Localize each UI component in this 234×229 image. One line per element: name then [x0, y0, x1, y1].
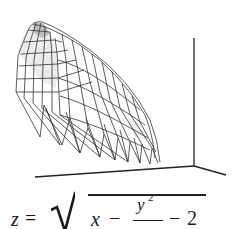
formula-x: x — [91, 208, 100, 229]
square-root-icon — [51, 191, 75, 229]
formula-minus-1: − — [109, 207, 120, 229]
formula-lhs: z — [11, 208, 19, 229]
formula-frac-numerator: y — [137, 195, 145, 215]
y-axis — [194, 166, 226, 175]
formula-minus-2: − — [169, 207, 180, 229]
formula-equals: = — [25, 207, 36, 229]
surface-equation: z = x − y 2 − 2 — [11, 192, 234, 229]
x-axis — [35, 166, 194, 177]
axes — [35, 38, 226, 177]
surface-plot — [0, 0, 234, 185]
formula-exponent: 2 — [148, 191, 154, 203]
formula-constant: 2 — [187, 207, 197, 229]
radical-bar — [88, 194, 206, 196]
fraction-bar — [133, 220, 163, 221]
